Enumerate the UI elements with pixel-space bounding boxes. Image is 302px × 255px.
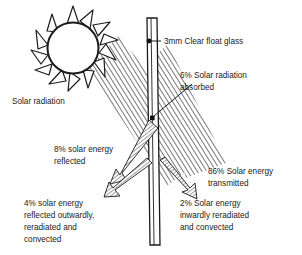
label-solar-radiation-line1: Solar radiation bbox=[12, 97, 65, 106]
label-outward-line4: convected bbox=[24, 235, 62, 244]
label-absorbed-line1: 6% Solar radiation bbox=[180, 71, 247, 80]
label-absorbed: 6% Solar radiation absorbed bbox=[180, 71, 247, 92]
label-reflected-line1: 8% solar energy bbox=[54, 145, 114, 154]
sun-disc bbox=[48, 23, 99, 74]
label-transmitted: 86% Solar energy transmitted bbox=[208, 167, 274, 188]
label-transmitted-line2: transmitted bbox=[208, 179, 249, 188]
label-outward-line3: reradiated and bbox=[24, 223, 77, 232]
label-transmitted-line1: 86% Solar energy bbox=[208, 167, 274, 176]
solar-radiation-diagram: Solar radiation 3mm Clear float glass 6%… bbox=[0, 0, 302, 255]
absorbed-callout-dot bbox=[150, 116, 155, 121]
label-outward-line2: reflected outwardly, bbox=[24, 211, 94, 220]
label-inward-line3: and convected bbox=[180, 223, 234, 232]
label-inward: 2% Solar energy inwardly reradiated and … bbox=[180, 199, 250, 232]
label-reflected-line2: reflected bbox=[54, 157, 86, 166]
label-absorbed-line2: absorbed bbox=[180, 83, 215, 92]
label-solar-radiation: Solar radiation bbox=[12, 97, 65, 106]
label-outward: 4% solar energy reflected outwardly, rer… bbox=[24, 199, 94, 244]
label-glass-line1: 3mm Clear float glass bbox=[164, 37, 243, 46]
label-inward-line1: 2% Solar energy bbox=[180, 199, 241, 208]
diagram-canvas: Solar radiation 3mm Clear float glass 6%… bbox=[0, 0, 302, 255]
label-reflected: 8% solar energy reflected bbox=[54, 145, 114, 166]
label-glass: 3mm Clear float glass bbox=[164, 37, 243, 46]
label-inward-line2: inwardly reradiated bbox=[180, 211, 250, 220]
glass-callout-dot bbox=[147, 39, 152, 44]
label-outward-line1: 4% solar energy bbox=[24, 199, 84, 208]
